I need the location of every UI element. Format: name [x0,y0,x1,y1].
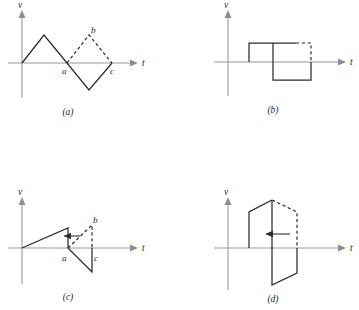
panel-c-point-b-label: b [93,215,98,225]
panel-d-v-axis-arrowhead [225,197,232,205]
panel-d: v t (d) [214,187,353,305]
panel-c-point-a-label: a [62,253,67,263]
panel-a-point-b-label: b [91,25,96,35]
panel-c-v-label: v [18,187,23,197]
panel-c-solid-negative-triangle [68,248,92,272]
panel-b-dashed-waveform [296,43,311,62]
panel-c-t-axis-arrowhead [130,245,138,252]
panel-d-solid-upper-trapezoid [249,200,272,248]
panel-a: v t a b c (a) [8,0,145,118]
panel-a-dashed-waveform [67,35,112,63]
panel-d-t-axis-arrowhead [338,245,346,252]
panel-b-v-axis-arrowhead [225,10,232,18]
panel-c-point-c-label: c [94,253,98,263]
panel-d-t-label: t [350,243,353,253]
panel-b: v t (b) [214,0,353,116]
panel-d-caption: (d) [267,294,278,305]
panel-c-caption: (c) [63,292,74,303]
panel-b-v-label: v [224,0,229,10]
panel-a-t-label: t [142,58,145,68]
panel-c: v t a b c (c) [8,187,145,303]
panel-c-solid-ramp [22,228,68,248]
panel-d-dashed-waveform [272,200,297,248]
panel-a-point-a-label: a [62,66,67,76]
panel-a-caption: (a) [62,107,73,118]
panel-d-solid-lower-parallelogram [272,200,297,285]
waveform-figure-svg: v t a b c (a) v t (b) [0,0,359,310]
panel-c-t-label: t [142,243,145,253]
figure-root: v t a b c (a) v t (b) [0,0,359,310]
panel-a-v-axis-arrowhead [19,10,26,18]
panel-b-t-label: t [350,57,353,67]
panel-a-t-axis-arrowhead [130,60,138,67]
panel-b-caption: (b) [267,105,278,116]
panel-b-t-axis-arrowhead [338,59,346,66]
panel-d-v-label: v [224,187,229,197]
panel-a-v-label: v [18,0,23,10]
panel-a-point-c-label: c [110,66,114,76]
panel-c-v-axis-arrowhead [19,197,26,205]
panel-d-left-shift-arrow-head [265,231,273,237]
